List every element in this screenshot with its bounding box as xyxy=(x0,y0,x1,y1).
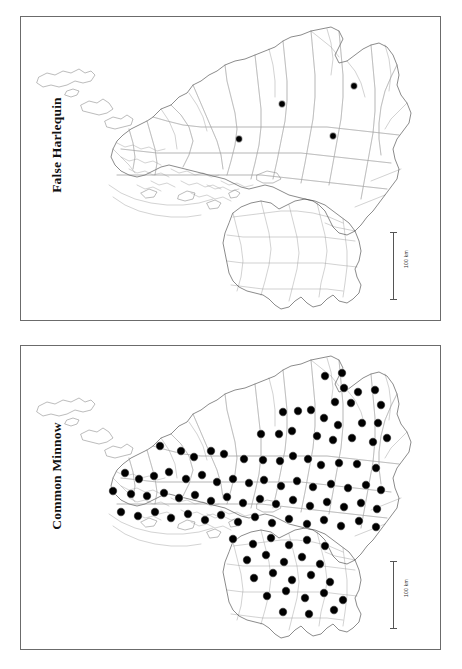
scale-bar-cap-bottom xyxy=(390,628,397,629)
occurrence-dot xyxy=(234,518,242,526)
occurrence-dot xyxy=(313,432,321,440)
occurrence-dot xyxy=(280,558,288,566)
occurrence-dot xyxy=(256,495,264,503)
occurrence-dot xyxy=(175,494,183,502)
occurrence-dot xyxy=(236,136,243,143)
occurrence-dot xyxy=(150,472,158,480)
occurrence-dot xyxy=(307,406,315,414)
occurrence-dot xyxy=(331,398,339,406)
occurrence-dot xyxy=(109,487,117,495)
occurrence-dot xyxy=(293,477,301,485)
occurrence-dot xyxy=(229,535,237,543)
scale-bar-label: 100 km xyxy=(403,239,409,279)
distribution-map-false-harlequin xyxy=(21,17,441,321)
occurrence-dot xyxy=(277,482,285,490)
occurrence-dot xyxy=(337,522,345,530)
occurrence-dot xyxy=(377,401,385,409)
occurrence-dot xyxy=(263,592,271,600)
occurrence-dot xyxy=(347,399,355,407)
occurrence-dot xyxy=(354,388,362,396)
occurrence-dot xyxy=(223,493,231,501)
occurrence-dot xyxy=(165,468,173,476)
scale-bar-rule xyxy=(393,561,394,629)
occurrence-dot xyxy=(259,456,267,464)
occurrence-dot xyxy=(371,386,379,394)
occurrence-dot xyxy=(198,471,206,479)
occurrence-dot xyxy=(262,551,270,559)
occurrence-dot xyxy=(201,516,209,524)
occurrence-dot xyxy=(207,447,215,455)
occurrence-dot xyxy=(245,479,253,487)
occurrence-dot xyxy=(304,455,312,463)
occurrence-dot xyxy=(190,453,198,461)
map-panel-common-minnow: Common Minnow 100 km xyxy=(20,345,441,650)
occurrence-dot xyxy=(288,427,296,435)
occurrence-dot xyxy=(330,133,337,140)
occurrence-dot xyxy=(377,486,385,494)
occurrence-dot xyxy=(321,372,329,380)
occurrence-dot xyxy=(317,461,325,469)
occurrence-dot xyxy=(362,481,370,489)
occurrence-dot xyxy=(121,469,129,477)
occurrence-dot xyxy=(279,608,287,616)
occurrence-dot xyxy=(374,419,382,427)
occurrence-dot xyxy=(353,460,361,468)
occurrence-dot xyxy=(326,578,334,586)
occurrence-dot xyxy=(330,606,338,614)
occurrence-dot xyxy=(340,384,348,392)
occurrence-dot xyxy=(358,419,366,427)
occurrence-dot xyxy=(338,369,346,377)
basemap-outline xyxy=(37,27,411,309)
occurrence-dot xyxy=(372,464,380,472)
scale-bar-rule xyxy=(393,232,394,300)
occurrence-dot xyxy=(279,101,286,108)
occurrence-dot xyxy=(268,519,276,527)
occurrence-dot xyxy=(320,589,328,597)
occurrence-dot xyxy=(249,540,257,548)
occurrence-dot xyxy=(160,489,168,497)
occurrence-dot xyxy=(269,569,277,577)
occurrence-dot xyxy=(340,503,348,511)
occurrence-dot xyxy=(240,455,248,463)
occurrence-dot xyxy=(329,436,337,444)
occurrence-dot xyxy=(134,512,142,520)
occurrence-dot xyxy=(357,499,365,507)
occurrence-dot xyxy=(275,430,283,438)
occurrence-dot xyxy=(220,450,228,458)
distribution-map-common-minnow xyxy=(21,346,441,650)
figure-root: False Harlequin 100 km Common Minnow 100… xyxy=(0,0,462,669)
occurrence-dot xyxy=(239,499,247,507)
occurrence-dot xyxy=(301,594,309,602)
occurrence-dot xyxy=(177,447,185,455)
occurrence-dot xyxy=(182,475,190,483)
occurrence-dot xyxy=(323,498,331,506)
scale-bar-bottom: 100 km xyxy=(390,559,416,631)
occurrence-dot xyxy=(348,434,356,442)
occurrence-dot xyxy=(289,452,297,460)
occurrence-dot xyxy=(339,596,347,604)
occurrence-dot xyxy=(383,434,391,442)
occurrence-dot xyxy=(309,483,317,491)
occurrence-dot xyxy=(127,490,135,498)
occurrence-dot xyxy=(207,497,215,505)
map-panel-false-harlequin: False Harlequin 100 km xyxy=(20,16,441,321)
occurrence-dot xyxy=(272,500,280,508)
occurrence-dot xyxy=(372,523,380,531)
occurrence-dot xyxy=(373,505,381,513)
occurrence-dot xyxy=(288,576,296,584)
occurrence-dot xyxy=(151,508,159,516)
occurrence-dot xyxy=(321,542,329,550)
occurrence-dot xyxy=(369,438,377,446)
occurrence-dot xyxy=(327,480,335,488)
occurrence-dot xyxy=(117,508,125,516)
occurrence-dot xyxy=(276,457,284,465)
occurrence-dot xyxy=(267,534,275,542)
occurrence-dot xyxy=(243,556,251,564)
occurrence-dot xyxy=(257,430,265,438)
occurrence-dot xyxy=(355,517,363,525)
occurrence-dot xyxy=(184,510,192,518)
occurrence-dot xyxy=(305,610,313,618)
occurrence-dot xyxy=(260,476,268,484)
occurrence-dot xyxy=(143,492,151,500)
occurrence-dot xyxy=(320,414,328,422)
